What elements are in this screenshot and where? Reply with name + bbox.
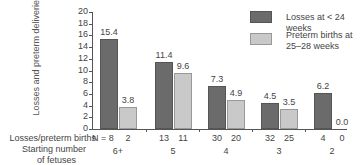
- bar-losses: [100, 39, 118, 129]
- y-tick-mark: [89, 106, 93, 107]
- category-label: 2: [317, 146, 347, 156]
- y-tick-label: 8: [74, 76, 88, 86]
- category-label: 4: [211, 146, 241, 156]
- n-count-label: 25: [279, 133, 299, 143]
- y-tick-label: 18: [74, 18, 88, 28]
- bar-preterm: [119, 107, 137, 129]
- y-tick-label: 14: [74, 41, 88, 51]
- category-label: 6+: [103, 146, 133, 156]
- x-tick-mark: [146, 129, 147, 132]
- bar-value-label: 0.0: [327, 117, 357, 127]
- n-count-label: 2: [118, 133, 138, 143]
- x-tick-mark: [199, 129, 200, 132]
- group-row-label-1: Starting number: [0, 144, 86, 154]
- legend-swatch-losses: [250, 11, 272, 23]
- legend-label-preterm-2: 25–28 weeks: [286, 41, 339, 52]
- n-count-label: 11: [173, 133, 193, 143]
- y-axis-label: Losses and preterm deliveries (percent): [31, 16, 42, 116]
- legend: Losses at < 24 weeks Preterm births at 2…: [250, 6, 360, 46]
- bar-value-label: 15.4: [94, 27, 124, 37]
- y-tick-label: 20: [74, 6, 88, 16]
- y-tick-mark: [89, 47, 93, 48]
- y-tick-label: 10: [74, 65, 88, 75]
- y-tick-mark: [89, 71, 93, 72]
- y-tick-mark: [89, 12, 93, 13]
- y-tick-label: 16: [74, 29, 88, 39]
- legend-label-preterm-1: Preterm births at: [286, 30, 353, 41]
- n-count-label: 13: [154, 133, 174, 143]
- y-tick-mark: [89, 35, 93, 36]
- n-row-label: Losses/preterm births: [0, 133, 96, 143]
- x-tick-mark: [252, 129, 253, 132]
- bar-value-label: 7.3: [202, 74, 232, 84]
- y-tick-mark: [89, 94, 93, 95]
- n-count-label: 32: [260, 133, 280, 143]
- n-count-label: 30: [207, 133, 227, 143]
- n-count-label: 0: [332, 133, 352, 143]
- y-tick-label: 12: [74, 53, 88, 63]
- bar-losses: [155, 62, 173, 129]
- bar-value-label: 9.6: [168, 61, 198, 71]
- n-count-label: 20: [226, 133, 246, 143]
- x-axis-line: [92, 129, 347, 130]
- y-tick-label: 0: [74, 123, 88, 133]
- category-label: 3: [264, 146, 294, 156]
- y-tick-mark: [89, 82, 93, 83]
- x-tick-mark: [305, 129, 306, 132]
- group-row-label-2: of fetuses: [0, 155, 76, 165]
- bar-preterm: [280, 109, 298, 129]
- y-tick-label: 4: [74, 100, 88, 110]
- bar-value-label: 3.5: [274, 97, 304, 107]
- y-tick-label: 2: [74, 111, 88, 121]
- y-tick-mark: [89, 59, 93, 60]
- bar-losses: [261, 103, 279, 129]
- y-tick-mark: [89, 129, 93, 130]
- bar-preterm: [174, 73, 192, 129]
- y-axis-label-text: Losses and preterm deliveries (percent): [31, 16, 42, 116]
- bar-value-label: 4.9: [221, 88, 251, 98]
- bar-value-label: 6.2: [308, 81, 338, 91]
- legend-swatch-preterm: [250, 33, 272, 45]
- y-tick-mark: [89, 24, 93, 25]
- bar-preterm: [227, 100, 245, 129]
- category-label: 5: [158, 146, 188, 156]
- n-count-label: 4: [313, 133, 333, 143]
- bar-value-label: 11.4: [149, 50, 179, 60]
- y-tick-label: 6: [74, 88, 88, 98]
- bar-value-label: 3.8: [113, 95, 143, 105]
- y-tick-mark: [89, 117, 93, 118]
